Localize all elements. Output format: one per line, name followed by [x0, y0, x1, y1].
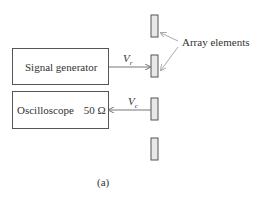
array-element-1: [151, 15, 158, 37]
vc-symbol: V: [128, 95, 135, 107]
oscilloscope-label: Oscilloscope: [17, 104, 74, 116]
annotation-arrow-2: [161, 47, 178, 70]
vr-symbol: V: [123, 52, 130, 64]
annotation-arrow-1: [161, 33, 178, 41]
signal-generator-block: Signal generator: [12, 48, 109, 85]
vc-subscript: c: [135, 102, 138, 110]
figure-caption: (a): [97, 176, 109, 188]
impedance-label: 50 Ω: [84, 104, 106, 116]
array-element-2: [151, 55, 158, 77]
oscilloscope-block: Oscilloscope 50 Ω: [12, 91, 109, 129]
vr-label: Vr: [123, 52, 132, 67]
array-element-4: [151, 138, 158, 160]
vr-subscript: r: [130, 59, 133, 67]
vc-label: Vc: [128, 95, 138, 110]
signal-generator-label: Signal generator: [25, 61, 97, 73]
array-element-3: [151, 98, 158, 120]
array-elements-annotation: Array elements: [182, 36, 250, 48]
